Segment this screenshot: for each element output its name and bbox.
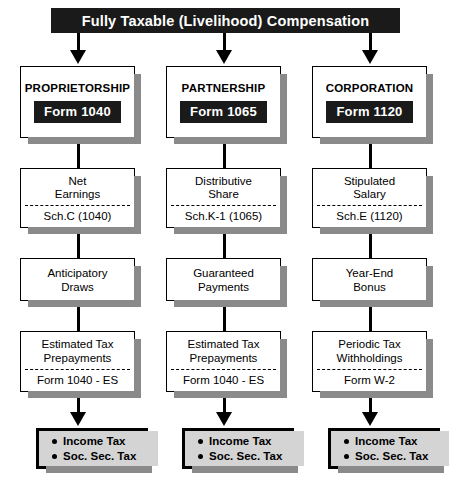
draw-line1-proprietorship: Anticipatory	[47, 266, 107, 280]
prepay-line2-corporation: Withholdings	[337, 352, 403, 366]
result-label: Income Tax	[63, 434, 125, 449]
node-partnership-entity[interactable]: PARTNERSHIP Form 1065	[166, 66, 281, 138]
node-partnership-taxes[interactable]: Income Tax Soc. Sec. Tax	[182, 428, 294, 469]
entity-name-partnership: PARTNERSHIP	[182, 82, 266, 94]
result-line-income-tax-partnership: Income Tax	[198, 434, 271, 449]
income-schedule-partnership: Sch.K-1 (1065)	[185, 210, 262, 224]
node-partnership-income[interactable]: Distributive Share Sch.K-1 (1065)	[166, 168, 281, 228]
income-title-line1-corporation: Stipulated	[344, 175, 395, 189]
node-proprietorship-entity[interactable]: PROPRIETORSHIP Form 1040	[20, 66, 135, 138]
result-label: Income Tax	[209, 434, 271, 449]
bullet-icon	[52, 439, 57, 444]
arrowhead-c2-to-result	[216, 412, 232, 426]
draw-line1-corporation: Year-End	[346, 266, 394, 280]
prepay-line1-proprietorship: Estimated Tax	[41, 338, 113, 352]
diagram-title: Fully Taxable (Livelihood) Compensation	[51, 8, 400, 33]
prepay-line1-corporation: Periodic Tax	[338, 338, 400, 352]
node-proprietorship-income[interactable]: Net Earnings Sch.C (1040)	[20, 168, 135, 228]
result-line-income-tax-proprietorship: Income Tax	[52, 434, 125, 449]
draw-line1-partnership: Guaranteed	[193, 266, 254, 280]
income-title-line2-corporation: Salary	[353, 188, 386, 202]
node-proprietorship-draws[interactable]: Anticipatory Draws	[20, 258, 135, 301]
arrowhead-c1-to-result	[70, 412, 86, 426]
result-line-income-tax-corporation: Income Tax	[344, 434, 417, 449]
prepay-line2-proprietorship: Prepayments	[44, 352, 112, 366]
node-corporation-withholdings[interactable]: Periodic Tax Withholdings Form W-2	[312, 331, 427, 392]
result-label: Soc. Sec. Tax	[209, 449, 282, 464]
entity-name-corporation: CORPORATION	[326, 82, 414, 94]
arrowhead-c3-to-result	[362, 412, 378, 426]
income-schedule-corporation: Sch.E (1120)	[336, 210, 402, 224]
result-label: Soc. Sec. Tax	[63, 449, 136, 464]
prepay-form-corporation: Form W-2	[344, 374, 395, 388]
result-line-socsec-tax-proprietorship: Soc. Sec. Tax	[52, 449, 136, 464]
bullet-icon	[344, 439, 349, 444]
node-corporation-bonus[interactable]: Year-End Bonus	[312, 258, 427, 301]
node-corporation-income[interactable]: Stipulated Salary Sch.E (1120)	[312, 168, 427, 228]
draw-line2-partnership: Payments	[198, 280, 249, 294]
arrowhead-title-to-partnership	[216, 50, 232, 64]
income-title-line2-partnership: Share	[208, 188, 239, 202]
node-corporation-entity[interactable]: CORPORATION Form 1120	[312, 66, 427, 138]
form-chip-corporation: Form 1120	[326, 101, 412, 123]
prepay-form-partnership: Form 1040 - ES	[183, 374, 264, 388]
entity-name-proprietorship: PROPRIETORSHIP	[25, 82, 130, 94]
form-chip-partnership: Form 1065	[180, 101, 267, 123]
draw-line2-corporation: Bonus	[353, 280, 386, 294]
bullet-icon	[198, 454, 203, 459]
income-title-line2-proprietorship: Earnings	[55, 188, 100, 202]
node-proprietorship-prepayments[interactable]: Estimated Tax Prepayments Form 1040 - ES	[20, 331, 135, 392]
income-title-line1-proprietorship: Net	[69, 175, 87, 189]
flowchart-canvas: Fully Taxable (Livelihood) Compensation …	[0, 0, 449, 480]
node-partnership-prepayments[interactable]: Estimated Tax Prepayments Form 1040 - ES	[166, 331, 281, 392]
node-proprietorship-taxes[interactable]: Income Tax Soc. Sec. Tax	[36, 428, 148, 469]
result-line-socsec-tax-partnership: Soc. Sec. Tax	[198, 449, 282, 464]
income-schedule-proprietorship: Sch.C (1040)	[44, 210, 112, 224]
result-line-socsec-tax-corporation: Soc. Sec. Tax	[344, 449, 428, 464]
income-title-line1-partnership: Distributive	[195, 175, 252, 189]
prepay-line2-partnership: Prepayments	[190, 352, 258, 366]
prepay-line1-partnership: Estimated Tax	[187, 338, 259, 352]
prepay-form-proprietorship: Form 1040 - ES	[37, 374, 118, 388]
result-label: Income Tax	[355, 434, 417, 449]
result-label: Soc. Sec. Tax	[355, 449, 428, 464]
node-corporation-taxes[interactable]: Income Tax Soc. Sec. Tax	[328, 428, 440, 469]
arrowhead-title-to-proprietorship	[70, 50, 86, 64]
bullet-icon	[52, 454, 57, 459]
bullet-icon	[198, 439, 203, 444]
draw-line2-proprietorship: Draws	[61, 280, 94, 294]
node-partnership-payments[interactable]: Guaranteed Payments	[166, 258, 281, 301]
arrowhead-title-to-corporation	[362, 50, 378, 64]
bullet-icon	[344, 454, 349, 459]
form-chip-proprietorship: Form 1040	[34, 101, 121, 123]
